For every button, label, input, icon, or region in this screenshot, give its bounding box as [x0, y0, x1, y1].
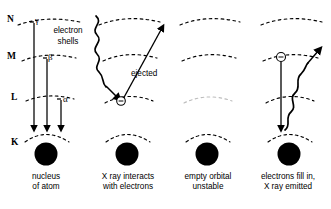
shell-arc-k [186, 135, 230, 143]
nucleus-circle-4 [278, 143, 301, 166]
panel-4-caption-line2: X ray emitted [246, 182, 330, 192]
shell-arc-m [103, 55, 157, 61]
shell-arc-m [182, 55, 236, 61]
gamma-label: γ [35, 16, 39, 26]
nucleus-circle-3 [196, 143, 219, 166]
shell-arc-n [18, 19, 80, 25]
shell-arc-l-faded [184, 97, 232, 103]
electron-symbol-panel-4 [277, 53, 286, 62]
shell-arc-k [268, 135, 312, 143]
shell-arc-l [266, 96, 314, 103]
panel-3-shells [180, 19, 240, 142]
shell-arc-k [25, 135, 69, 143]
xray-emission-diagram: N M L K γ β α electron shells ejected nu… [0, 0, 331, 209]
shell-arc-k [106, 135, 150, 143]
electron-shells-note-line2: shells [40, 38, 96, 47]
panel-4-shells [261, 19, 322, 142]
shell-arc-n [99, 19, 160, 25]
shell-arc-n [180, 19, 240, 25]
emitted-xray-arrow [307, 50, 319, 64]
panel-1-caption: nucleus of atom [6, 172, 86, 191]
shell-label-k: K [11, 137, 18, 147]
shell-label-m: M [7, 51, 16, 61]
shell-label-n: N [7, 14, 14, 24]
shell-arc-n [261, 19, 322, 25]
panel-3-caption: empty orbital unstable [167, 172, 249, 191]
incoming-xray-wave [95, 16, 106, 87]
panel-3-caption-line1: empty orbital [167, 172, 249, 182]
electron-symbol-panel-2 [117, 97, 126, 106]
ejected-label: ejected [131, 70, 157, 79]
shell-arc-l [105, 96, 153, 103]
alpha-label: α [63, 95, 68, 105]
panel-2-caption-line1: X ray interacts [86, 172, 170, 182]
electron-shells-note-line1: electron [40, 27, 96, 36]
nucleus-circle-2 [116, 143, 139, 166]
panel-4-caption: electrons fill in, X ray emitted [246, 172, 330, 191]
panel-2-caption-line2: with electrons [86, 182, 170, 192]
panel-2-shells [99, 19, 160, 142]
panel-2-caption: X ray interacts with electrons [86, 172, 170, 191]
panel-3-caption-line2: unstable [167, 182, 249, 192]
shell-label-l: L [11, 92, 17, 102]
beta-label: β [48, 53, 53, 63]
incoming-xray-arrow [106, 86, 118, 98]
nucleus-circle-1 [35, 143, 58, 166]
panel-1-caption-line2: of atom [6, 182, 86, 192]
ejected-electron-arrow [122, 28, 162, 101]
panel-4-caption-line1: electrons fill in, [246, 172, 330, 182]
panel-1-caption-line1: nucleus [6, 172, 86, 182]
